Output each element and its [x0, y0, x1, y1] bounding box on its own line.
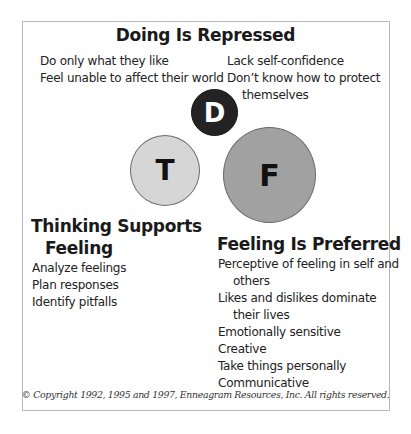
thinking-title-line2: Feeling: [45, 238, 113, 258]
feeling-list: Perceptive of feeling in self and others…: [218, 256, 399, 392]
list-item: Likes and dislikes dominate their lives: [218, 290, 399, 324]
list-item: Emotionally sensitive: [218, 324, 399, 341]
copyright-notice: © Copyright 1992, 1995 and 1997, Enneagr…: [0, 389, 411, 400]
list-item: Analyze feelings: [32, 260, 126, 277]
thinking-list: Analyze feelings Plan responses Identify…: [32, 260, 126, 311]
feeling-circle: F: [223, 127, 316, 223]
doing-circle: D: [191, 89, 238, 136]
list-item: Don’t know how to protect themselves: [227, 70, 380, 104]
doing-letter: D: [204, 98, 226, 128]
list-item: Take things personally: [218, 358, 399, 375]
doing-right-list: Lack self-confidence Don’t know how to p…: [227, 53, 380, 104]
feeling-letter: F: [259, 158, 280, 193]
list-item: Perceptive of feeling in self and others: [218, 256, 399, 290]
thinking-title-line1: Thinking Supports: [31, 216, 202, 236]
thinking-letter: T: [155, 154, 174, 187]
list-item: Identify pitfalls: [32, 294, 126, 311]
list-item: Do only what they like: [40, 53, 224, 70]
doing-title: Doing Is Repressed: [0, 25, 411, 45]
list-item: Creative: [218, 341, 399, 358]
thinking-circle: T: [130, 135, 200, 206]
list-item: Feel unable to affect their world: [40, 70, 224, 87]
feeling-title: Feeling Is Preferred: [217, 234, 401, 254]
list-item: Plan responses: [32, 277, 126, 294]
list-item: Lack self-confidence: [227, 53, 380, 70]
doing-left-list: Do only what they like Feel unable to af…: [40, 53, 224, 87]
